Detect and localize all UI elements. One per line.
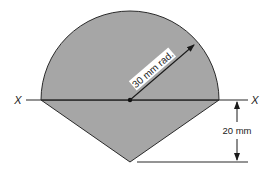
- axis-label-right: X: [250, 94, 259, 106]
- diagram-canvas: 30 mm rad. 20 mm X X: [0, 0, 272, 177]
- axis-label-left: X: [13, 94, 22, 106]
- semicircle-section: [41, 11, 219, 100]
- triangle-section: [41, 100, 219, 162]
- height-dimension-label: 20 mm: [222, 125, 251, 136]
- cross-section-figure: 30 mm rad. 20 mm X X: [0, 0, 272, 177]
